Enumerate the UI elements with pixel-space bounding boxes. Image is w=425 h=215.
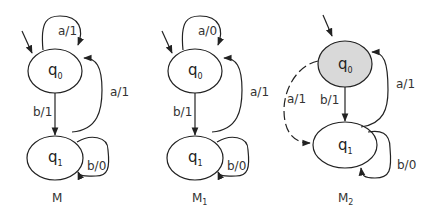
initial-arrow: [162, 31, 172, 53]
transition-label: b/0: [87, 159, 106, 173]
fsm-diagram: q0 q1 a/1 b/1 a/1 b/0 M q0 q1 a/0 b/1 a/…: [0, 0, 425, 215]
transition-label: b/1: [173, 105, 192, 119]
transition-label: a/1: [250, 85, 269, 99]
machine-m2: q0 q1 a/1 b/1 a/1 b/0 M2: [284, 15, 416, 207]
transition-label: a/1: [110, 85, 129, 99]
machine-m1: q0 q1 a/0 b/1 a/1 b/0 M1: [162, 16, 269, 207]
transition-label: b/0: [397, 158, 416, 172]
initial-arrow: [323, 15, 332, 36]
machine-m: q0 q1 a/1 b/1 a/1 b/0 M: [22, 16, 129, 205]
initial-arrow: [22, 31, 32, 53]
transition-label: a/0: [198, 24, 217, 38]
transition-label: b/0: [227, 159, 246, 173]
transition-label: b/1: [33, 105, 52, 119]
machine-caption: M2: [338, 191, 353, 207]
transition-label: a/1: [396, 77, 415, 91]
machine-caption: M: [52, 191, 62, 205]
transition-label: a/1: [58, 24, 77, 38]
transition-label: b/1: [320, 93, 339, 107]
transition-label: a/1: [287, 92, 306, 106]
machine-caption: M1: [192, 191, 207, 207]
